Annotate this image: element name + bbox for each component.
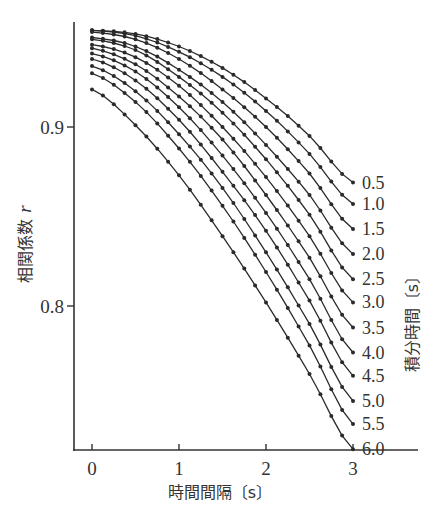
legend-title: 積分時間〔s〕 [403, 268, 422, 372]
data-point [166, 85, 170, 89]
data-point [177, 173, 181, 177]
series-lines [90, 28, 355, 451]
data-point [210, 141, 214, 145]
data-point [101, 39, 105, 43]
data-point [90, 30, 94, 34]
data-point [166, 51, 170, 55]
data-point [275, 189, 279, 193]
data-point [134, 45, 138, 49]
data-point [166, 67, 170, 71]
data-point [101, 68, 105, 72]
data-point [144, 135, 148, 139]
data-point [286, 285, 290, 289]
data-point [308, 299, 312, 303]
data-point [177, 68, 181, 72]
data-point [297, 219, 301, 223]
data-point [297, 304, 301, 308]
data-point [155, 46, 159, 50]
data-point [231, 250, 235, 254]
data-point [188, 160, 192, 164]
data-point [351, 202, 355, 206]
data-point [275, 318, 279, 322]
data-point [351, 447, 355, 451]
data-point [231, 73, 235, 77]
data-point [318, 274, 322, 278]
data-point [90, 57, 94, 61]
data-point [155, 121, 159, 125]
series-label-0.5: 0.5 [362, 173, 385, 193]
data-point [264, 96, 268, 100]
data-point [123, 63, 127, 67]
data-point [242, 267, 246, 271]
data-point [101, 76, 105, 80]
data-point [144, 37, 148, 41]
data-point [231, 137, 235, 141]
data-point [286, 147, 290, 151]
series-label-2.5: 2.5 [362, 269, 385, 289]
data-point [123, 35, 127, 39]
data-point [221, 100, 225, 104]
data-point [221, 125, 225, 129]
data-point [210, 101, 214, 105]
data-point [177, 132, 181, 136]
data-point [199, 54, 203, 58]
data-point [134, 123, 138, 127]
data-point [286, 204, 290, 208]
data-point [264, 125, 268, 129]
data-point [199, 103, 203, 107]
data-point [351, 227, 355, 231]
data-point [101, 31, 105, 35]
data-point [221, 138, 225, 142]
data-point [123, 81, 127, 85]
data-point [210, 189, 214, 193]
data-point [351, 374, 355, 378]
data-point [177, 50, 181, 54]
data-point [177, 45, 181, 49]
data-point [275, 105, 279, 109]
data-point [166, 75, 170, 79]
data-point [318, 165, 322, 169]
data-point [242, 236, 246, 240]
data-point [199, 83, 203, 87]
data-point [101, 54, 105, 58]
data-point [188, 116, 192, 120]
data-point [253, 253, 257, 257]
x-tick-label: 2 [261, 458, 271, 479]
data-point [210, 60, 214, 64]
data-point [351, 277, 355, 281]
data-point [329, 387, 333, 391]
data-point [177, 95, 181, 99]
data-point [90, 52, 94, 56]
data-point [297, 198, 301, 202]
data-point [188, 93, 192, 97]
data-point [221, 75, 225, 79]
y-tick-label: 0.9 [40, 117, 64, 138]
data-point [188, 83, 192, 87]
data-point [329, 341, 333, 345]
data-point [264, 229, 268, 233]
data-point [351, 399, 355, 403]
series-label-3.0: 3.0 [362, 292, 385, 312]
series-label-4.0: 4.0 [362, 343, 385, 363]
data-point [340, 241, 344, 245]
data-point [253, 145, 257, 149]
y-axis-symbol: r [14, 205, 35, 213]
x-tick-label: 1 [174, 458, 184, 479]
data-point [264, 143, 268, 147]
x-tick-label: 3 [348, 458, 358, 479]
data-point [264, 157, 268, 161]
data-point [199, 174, 203, 178]
data-point [253, 88, 257, 92]
data-point [329, 160, 333, 164]
y-tick-label: 0.8 [40, 296, 64, 317]
data-point [101, 49, 105, 53]
data-point [351, 326, 355, 330]
data-point [166, 45, 170, 49]
data-point [166, 107, 170, 111]
data-point [112, 41, 116, 45]
data-point [210, 171, 214, 175]
data-point [123, 112, 127, 116]
data-point [308, 193, 312, 197]
data-point [210, 68, 214, 72]
data-point [155, 109, 159, 113]
